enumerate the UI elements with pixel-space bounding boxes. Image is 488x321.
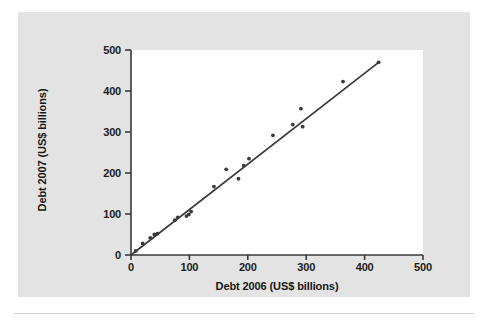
scatter-chart: [18, 12, 488, 321]
figure-root: 0 100 200 300 400 500 0 100 200 300 400 …: [0, 0, 488, 321]
data-point: [271, 133, 275, 137]
y-tick-label-200: 200: [91, 167, 121, 179]
data-point: [189, 210, 193, 214]
trend-line: [131, 62, 379, 255]
y-ticks-group: [125, 50, 131, 255]
data-point: [141, 242, 145, 246]
data-point: [176, 215, 180, 219]
data-point: [341, 80, 345, 84]
data-point: [299, 107, 303, 111]
y-tick-label-500: 500: [91, 44, 121, 56]
y-axis-title: Debt 2007 (US$ billions): [36, 70, 48, 230]
data-point: [377, 60, 381, 64]
data-point: [224, 167, 228, 171]
axes-group: [131, 50, 423, 255]
data-point: [301, 125, 305, 129]
data-point: [212, 185, 216, 189]
bottom-divider: [14, 313, 474, 314]
data-point: [155, 232, 159, 236]
x-tick-label-300: 300: [297, 261, 315, 273]
x-tick-label-200: 200: [239, 261, 257, 273]
data-point: [148, 236, 152, 240]
data-point: [247, 157, 251, 161]
y-tick-label-100: 100: [91, 208, 121, 220]
data-point: [237, 177, 241, 181]
data-point: [291, 123, 295, 127]
x-tick-label-400: 400: [356, 261, 374, 273]
x-tick-label-100: 100: [181, 261, 199, 273]
y-tick-label-400: 400: [91, 85, 121, 97]
data-point: [173, 218, 177, 222]
x-tick-label-500: 500: [414, 261, 432, 273]
data-point: [242, 164, 246, 168]
y-tick-label-0: 0: [91, 249, 121, 261]
figure-panel: 0 100 200 300 400 500 0 100 200 300 400 …: [18, 12, 470, 297]
x-axis-title: Debt 2006 (US$ billions): [131, 280, 423, 292]
y-tick-label-300: 300: [91, 126, 121, 138]
data-point: [134, 249, 138, 253]
x-tick-label-0: 0: [128, 261, 134, 273]
